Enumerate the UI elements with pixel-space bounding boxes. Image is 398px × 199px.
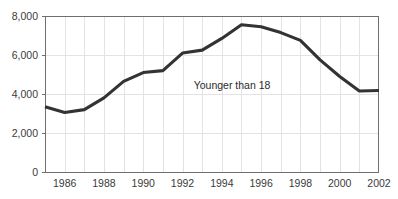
y-tick-label: 0	[32, 166, 38, 178]
x-tick-label: 1992	[171, 177, 195, 189]
chart-canvas: 02,0004,0006,0008,000 198619881990199219…	[0, 0, 398, 199]
y-tick-label: 6,000	[12, 49, 38, 61]
x-tick-label: 2000	[328, 177, 352, 189]
x-axis-tick-labels: 198619881990199219941996199820002002	[53, 177, 391, 189]
x-tick-label: 1994	[210, 177, 234, 189]
y-tick-label: 8,000	[12, 10, 38, 22]
line-chart: 02,0004,0006,0008,000 198619881990199219…	[0, 0, 398, 199]
x-tick-label: 1986	[53, 177, 77, 189]
y-tick-label: 2,000	[12, 127, 38, 139]
x-tick-label: 1988	[92, 177, 116, 189]
y-tick-label: 4,000	[12, 88, 38, 100]
series-annotation-label: Younger than 18	[194, 79, 271, 91]
chart-background	[0, 0, 398, 199]
x-tick-label: 1998	[289, 177, 313, 189]
x-tick-label: 1990	[132, 177, 156, 189]
x-tick-label: 2002	[367, 177, 391, 189]
x-tick-label: 1996	[249, 177, 273, 189]
